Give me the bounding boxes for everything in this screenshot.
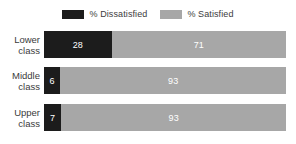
category-label-line1: Lower [14,34,40,45]
bar-value-dissatisfied: 6 [50,76,55,86]
bar-segment-dissatisfied[interactable]: 6 [44,67,60,94]
stacked-bar-upper-class: 7 93 [44,104,286,131]
bar-segment-satisfied[interactable]: 93 [61,104,286,131]
legend-item-dissatisfied[interactable]: % Dissatisfied [62,9,147,19]
category-label-line2: class [18,81,40,92]
legend-swatch-dissatisfied-icon [62,10,84,19]
stacked-bar-lower-class: 28 71 [44,31,286,58]
category-label-line2: class [18,45,40,56]
category-label-middle-class: Middle class [0,66,40,95]
legend-item-satisfied[interactable]: % Satisfied [160,9,233,19]
chart-row-lower-class: Lower class 28 71 [0,31,296,58]
category-label-lower-class: Lower class [0,30,40,59]
chart-row-middle-class: Middle class 6 93 [0,67,296,94]
legend-swatch-satisfied-icon [160,10,182,19]
bar-segment-satisfied[interactable]: 71 [112,31,286,58]
bar-segment-dissatisfied[interactable]: 28 [44,31,112,58]
legend-label-dissatisfied: % Dissatisfied [89,9,147,19]
bar-value-dissatisfied: 7 [50,113,55,123]
chart-legend: % Dissatisfied % Satisfied [0,5,296,23]
legend-label-satisfied: % Satisfied [187,9,233,19]
stacked-bar-chart: % Dissatisfied % Satisfied Lower class 2… [0,0,296,144]
category-label-line1: Upper [14,107,40,118]
bar-segment-dissatisfied[interactable]: 7 [44,104,61,131]
bar-value-satisfied: 93 [168,76,178,86]
chart-row-upper-class: Upper class 7 93 [0,104,296,131]
bar-segment-satisfied[interactable]: 93 [60,67,286,94]
plot-area: Lower class 28 71 Middle class 6 [0,24,296,144]
category-label-line2: class [18,118,40,129]
bar-value-satisfied: 93 [168,113,178,123]
stacked-bar-middle-class: 6 93 [44,67,286,94]
bar-value-dissatisfied: 28 [73,40,83,50]
category-label-upper-class: Upper class [0,103,40,132]
bar-value-satisfied: 71 [194,40,204,50]
category-label-line1: Middle [12,70,40,81]
